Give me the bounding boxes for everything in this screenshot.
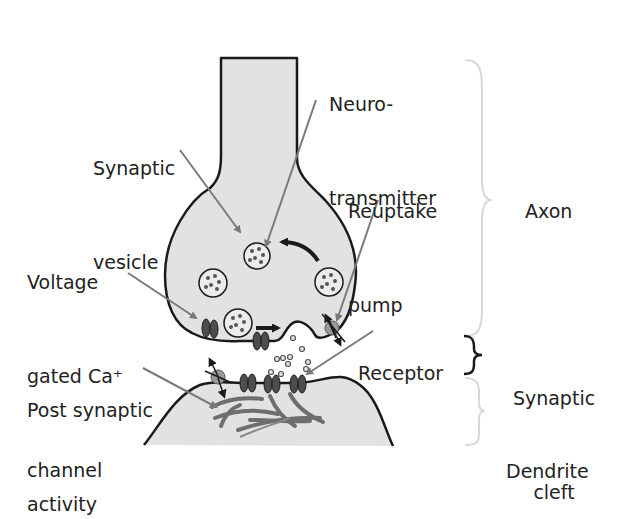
label-receptor-text: Receptor xyxy=(358,357,443,389)
region-dendrite: Dendrite xyxy=(506,391,589,519)
cleft-brace xyxy=(464,336,482,374)
label-post-synaptic-activity: Post synaptic activity xyxy=(27,330,153,519)
label-post-synaptic-line2: activity xyxy=(27,488,153,519)
vesicle xyxy=(224,309,252,337)
region-axon-text: Axon xyxy=(525,195,572,227)
axon-terminal xyxy=(165,58,356,341)
region-dendrite-text: Dendrite xyxy=(506,455,589,487)
label-receptor: Receptor xyxy=(358,293,443,421)
label-synaptic-vesicle-line1: Synaptic xyxy=(93,152,175,184)
vesicle xyxy=(315,268,343,296)
label-voltage-line1: Voltage xyxy=(27,266,123,298)
region-axon: Axon xyxy=(525,131,572,259)
postsynaptic-receptors xyxy=(240,374,306,393)
label-neurotransmitter-line1: Neuro- xyxy=(329,88,436,120)
label-reuptake-line1: Reuptake xyxy=(348,195,437,227)
vesicle xyxy=(199,269,227,297)
dendrite-brace xyxy=(465,378,485,445)
vesicle xyxy=(244,243,270,269)
axon-brace xyxy=(465,60,492,336)
label-post-synaptic-line1: Post synaptic xyxy=(27,394,153,426)
